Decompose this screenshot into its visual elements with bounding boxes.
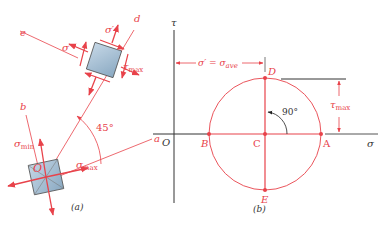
angle-label-90: 90° xyxy=(282,107,298,117)
element-origin-label: O xyxy=(33,162,42,175)
angle-label-45: 45° xyxy=(96,122,114,133)
diagram-canvas: 45° O σmin σmax σ′ σ′ τmax a xyxy=(0,0,388,230)
sigma-prime-arrow-down xyxy=(89,77,96,95)
max-shear-element xyxy=(86,42,121,77)
caption-a: (a) xyxy=(71,202,84,212)
axis-label-a: a xyxy=(154,133,160,144)
label-B: B xyxy=(200,138,208,149)
axis-label-e: e xyxy=(20,27,26,38)
caption-b: (b) xyxy=(253,204,266,214)
label-D: D xyxy=(267,66,276,77)
tau-max-arrow-left xyxy=(80,42,86,66)
tau-max-label: τmax xyxy=(123,61,143,74)
axis-label-b: b xyxy=(20,101,26,112)
tau-max-dim-label: τmax xyxy=(330,99,350,112)
sigma-ave-label: σ′ = σave xyxy=(198,58,238,70)
panel-a: 45° O σmin σmax σ′ σ′ τmax a xyxy=(8,13,160,215)
point-B xyxy=(207,132,211,136)
point-A xyxy=(319,132,323,136)
label-C: C xyxy=(253,138,261,149)
origin-label: O xyxy=(162,137,170,148)
sigma-prime-label-top: σ′ xyxy=(105,24,115,35)
tau-axis-label: τ xyxy=(171,17,177,28)
panel-b: τ σ O A B C D E 90° σ′ = σave τmax xyxy=(153,17,378,214)
sigma-prime-label-left: σ′ xyxy=(62,42,72,53)
label-A: A xyxy=(322,138,331,149)
point-D xyxy=(263,76,267,80)
point-C xyxy=(263,132,267,136)
sigma-axis-label: σ xyxy=(367,138,375,149)
axis-label-d: d xyxy=(134,13,140,24)
point-E xyxy=(263,188,267,192)
